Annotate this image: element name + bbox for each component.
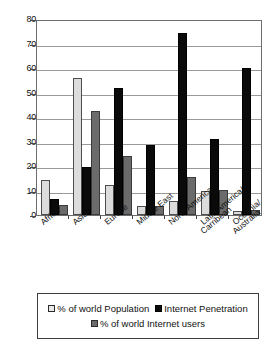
legend-label-population: % of world Population <box>57 304 149 314</box>
legend-item-users: % of world Internet users <box>91 319 205 329</box>
bar <box>73 78 82 215</box>
bar-group <box>37 21 69 215</box>
legend-row-2: % of world Internet users <box>88 319 208 329</box>
legend-item-penetration: Internet Penetration <box>155 304 247 314</box>
bar <box>91 111 100 215</box>
bar-group <box>165 21 197 215</box>
x-axis-label: Oceania/Australia <box>229 218 261 290</box>
bar <box>114 88 123 215</box>
bar-group <box>229 21 261 215</box>
x-axis-label: North America <box>165 218 197 290</box>
x-axis-label: Europe <box>101 218 133 290</box>
x-axis-labels: AfricaAsiaEuropeMiddle EastNorth America… <box>37 218 261 290</box>
x-axis-label: Middle East <box>133 218 165 290</box>
x-axis-label: Africa <box>37 218 69 290</box>
legend-item-population: % of world Population <box>48 304 149 314</box>
x-axis-label: Asia <box>69 218 101 290</box>
y-axis: 01020304050607080 <box>0 0 36 236</box>
bar-groups <box>37 21 261 215</box>
legend-label-users: % of world Internet users <box>100 319 205 329</box>
bar <box>178 33 187 215</box>
bar-group <box>101 21 133 215</box>
bar-group <box>197 21 229 215</box>
y-tick-mark <box>30 216 36 217</box>
legend-row-1: % of world Population Internet Penetrati… <box>45 304 250 314</box>
legend-swatch-icon-penetration <box>155 305 162 312</box>
bar-chart: 01020304050607080 AfricaAsiaEuropeMiddle… <box>0 0 280 346</box>
bar-group <box>133 21 165 215</box>
legend-swatch-icon-population <box>48 305 55 312</box>
x-axis-label: Latin America/Carribean <box>197 218 229 290</box>
legend-swatch-icon-users <box>91 320 98 327</box>
bar-group <box>69 21 101 215</box>
legend-label-penetration: Internet Penetration <box>164 304 247 314</box>
chart-legend: % of world Population Internet Penetrati… <box>37 293 259 339</box>
